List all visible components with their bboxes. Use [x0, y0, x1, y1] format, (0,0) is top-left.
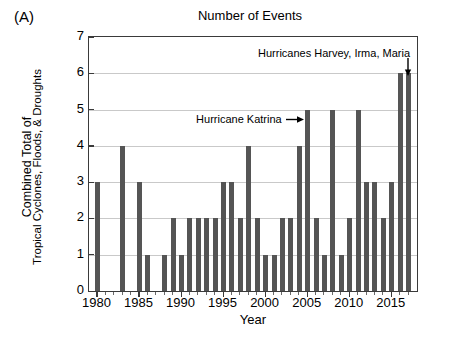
bar	[347, 218, 352, 291]
bar	[406, 73, 411, 291]
y-axis-tick-label: 0	[62, 283, 84, 296]
bar	[263, 255, 268, 291]
bar	[255, 218, 260, 291]
bar	[196, 218, 201, 291]
x-axis-title: Year	[88, 312, 418, 327]
annotation-hurricane-katrina: Hurricane Katrina	[196, 113, 282, 125]
x-axis-tick-label: 2010	[327, 296, 371, 310]
x-axis-tick-minor	[122, 292, 123, 295]
x-axis-tick-label: 2000	[243, 296, 287, 310]
x-axis-tick-minor	[332, 292, 333, 295]
annotation-harvey-irma-maria: Hurricanes Harvey, Irma, Maria	[258, 47, 410, 59]
bar	[204, 218, 209, 291]
y-axis-tick	[89, 218, 94, 219]
y-axis-title-secondary: Tropical Cyclones, Floods, & Droughts	[30, 38, 48, 296]
y-axis-tick-label: 3	[62, 174, 84, 187]
bar	[288, 218, 293, 291]
x-axis-tick-label: 1990	[159, 296, 203, 310]
y-axis-tick	[89, 291, 94, 292]
x-axis-tick-minor	[113, 292, 114, 295]
y-axis-tick-label: 1	[62, 247, 84, 260]
bar	[145, 255, 150, 291]
bar	[162, 255, 167, 291]
y-axis-tick	[89, 37, 94, 38]
y-axis-tick	[89, 109, 94, 110]
chart-title: Number of Events	[100, 8, 400, 23]
plot-area	[88, 36, 418, 292]
x-axis-tick-minor	[155, 292, 156, 295]
bar	[137, 182, 142, 291]
bar	[322, 255, 327, 291]
y-axis-tick	[89, 73, 94, 74]
x-axis-tick-minor	[290, 292, 291, 295]
bar	[238, 218, 243, 291]
bar	[339, 255, 344, 291]
x-axis-tick-minor	[281, 292, 282, 295]
y-axis-tick	[89, 254, 94, 255]
bar	[179, 255, 184, 291]
bar	[364, 182, 369, 291]
bar	[187, 218, 192, 291]
y-axis-tick-label: 2	[62, 210, 84, 223]
bar	[398, 73, 403, 291]
x-axis-tick-minor	[323, 292, 324, 295]
y-axis-title-line-2: Tropical Cyclones, Floods, & Droughts	[31, 38, 47, 296]
bar	[221, 182, 226, 291]
x-axis-tick-minor	[197, 292, 198, 295]
x-axis-tick-label: 2015	[369, 296, 413, 310]
bar	[305, 110, 310, 291]
y-axis-tick-label: 7	[62, 29, 84, 42]
gridline	[89, 110, 417, 111]
gridline	[89, 146, 417, 147]
panel-label: (A)	[14, 8, 34, 25]
x-axis-tick-label: 1980	[74, 296, 118, 310]
y-axis-tick	[89, 145, 94, 146]
gridline	[89, 73, 417, 74]
y-axis-tick-label: 4	[62, 138, 84, 151]
x-axis-tick-label: 1985	[116, 296, 160, 310]
bar	[213, 218, 218, 291]
x-axis-tick-label: 2005	[285, 296, 329, 310]
bar	[330, 110, 335, 291]
bar	[246, 146, 251, 291]
bar	[389, 182, 394, 291]
bar	[120, 146, 125, 291]
bar	[381, 218, 386, 291]
annotation-harvey-arrow-icon	[403, 58, 413, 76]
bar	[356, 110, 361, 291]
y-axis-tick	[89, 182, 94, 183]
bar	[229, 182, 234, 291]
x-axis-tick-minor	[408, 292, 409, 295]
x-axis-tick-minor	[248, 292, 249, 295]
bar	[171, 218, 176, 291]
figure-panel-a: (A) Number of Events Combined Total of T…	[0, 0, 457, 341]
bar	[314, 218, 319, 291]
bar	[272, 255, 277, 291]
x-axis-tick-minor	[164, 292, 165, 295]
bar	[95, 182, 100, 291]
bar	[297, 146, 302, 291]
annotation-katrina-arrow-icon	[286, 114, 304, 125]
x-axis-tick-minor	[206, 292, 207, 295]
x-axis-tick-minor	[374, 292, 375, 295]
bar	[280, 218, 285, 291]
x-axis-tick-label: 1995	[201, 296, 245, 310]
y-axis-tick-label: 6	[62, 65, 84, 78]
x-axis-tick-minor	[366, 292, 367, 295]
y-axis-tick-label: 5	[62, 102, 84, 115]
x-axis-tick-minor	[239, 292, 240, 295]
bar	[372, 182, 377, 291]
